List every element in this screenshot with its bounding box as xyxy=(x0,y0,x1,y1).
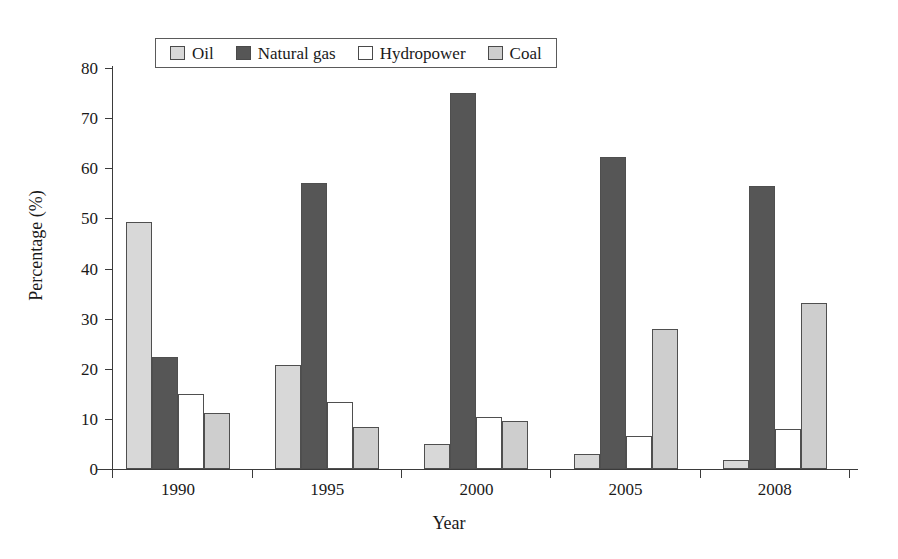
legend-item-label: Natural gas xyxy=(258,45,336,62)
legend-swatch-icon xyxy=(358,46,373,60)
x-axis-tick xyxy=(252,469,253,478)
bar-coal-1995 xyxy=(353,427,379,469)
legend-item-label: Hydropower xyxy=(380,45,466,62)
y-axis-tick-label: 60 xyxy=(42,160,98,177)
bar-hydropower-1990 xyxy=(178,394,204,469)
x-axis-tick xyxy=(550,469,551,478)
bar-coal-1990 xyxy=(204,413,230,469)
bar-natural-gas-2000 xyxy=(450,93,476,469)
bar-natural-gas-2008 xyxy=(749,186,775,469)
bar-oil-2005 xyxy=(574,454,600,469)
y-axis-tick-label: 40 xyxy=(42,260,98,277)
chart-legend: OilNatural gasHydropowerCoal xyxy=(155,38,557,68)
bar-oil-2000 xyxy=(424,444,450,469)
bar-coal-2000 xyxy=(502,421,528,469)
legend-item-coal[interactable]: Coal xyxy=(488,45,542,62)
y-axis-tick xyxy=(105,369,113,370)
x-axis-tick-label: 2000 xyxy=(416,481,536,498)
x-axis-tick-label: 1995 xyxy=(267,481,387,498)
y-axis-tick-label: 30 xyxy=(42,310,98,327)
y-axis-tick-label: 0 xyxy=(42,461,98,478)
legend-item-label: Oil xyxy=(192,45,214,62)
x-axis-tick xyxy=(849,469,850,478)
legend-item-natural-gas[interactable]: Natural gas xyxy=(236,45,336,62)
bar-natural-gas-1990 xyxy=(152,357,178,469)
y-axis-tick xyxy=(105,419,113,420)
plot-area xyxy=(112,68,858,469)
bar-natural-gas-1995 xyxy=(301,183,327,469)
x-axis-tick-label: 1990 xyxy=(118,481,238,498)
y-axis-tick xyxy=(105,168,113,169)
bar-coal-2005 xyxy=(652,329,678,469)
y-axis-tick-label: 50 xyxy=(42,210,98,227)
legend-swatch-icon xyxy=(236,46,251,60)
bar-hydropower-2005 xyxy=(626,436,652,469)
legend-item-hydropower[interactable]: Hydropower xyxy=(358,45,466,62)
x-axis-tick xyxy=(401,469,402,478)
y-axis-title: Percentage (%) xyxy=(26,146,47,346)
bar-hydropower-2000 xyxy=(476,417,502,469)
y-axis-tick-labels: 01020304050607080 xyxy=(40,0,98,559)
x-axis-title: Year xyxy=(0,513,898,534)
bar-oil-1995 xyxy=(275,365,301,469)
x-axis-line xyxy=(96,469,858,470)
bar-hydropower-1995 xyxy=(327,402,353,469)
x-axis-origin-tick xyxy=(112,469,113,478)
bar-hydropower-2008 xyxy=(775,429,801,469)
x-axis-tick-label: 2008 xyxy=(715,481,835,498)
y-axis-tick xyxy=(105,68,113,69)
y-axis-tick-label: 20 xyxy=(42,360,98,377)
y-axis-tick-label: 80 xyxy=(42,60,98,77)
bar-natural-gas-2005 xyxy=(600,157,626,469)
bar-coal-2008 xyxy=(801,303,827,469)
y-axis-tick xyxy=(105,118,113,119)
y-axis-tick-label: 70 xyxy=(42,110,98,127)
y-axis-tick xyxy=(105,319,113,320)
legend-swatch-icon xyxy=(488,46,503,60)
legend-item-oil[interactable]: Oil xyxy=(170,45,214,62)
bar-oil-1990 xyxy=(126,222,152,469)
x-axis-tick-label: 2005 xyxy=(566,481,686,498)
y-axis-tick xyxy=(105,218,113,219)
bar-oil-2008 xyxy=(723,460,749,469)
y-axis-tick xyxy=(105,269,113,270)
bar-chart-figure: OilNatural gasHydropowerCoal 01020304050… xyxy=(0,0,898,559)
legend-swatch-icon xyxy=(170,46,185,60)
y-axis-tick-label: 10 xyxy=(42,410,98,427)
x-axis-tick xyxy=(700,469,701,478)
legend-item-label: Coal xyxy=(510,45,542,62)
